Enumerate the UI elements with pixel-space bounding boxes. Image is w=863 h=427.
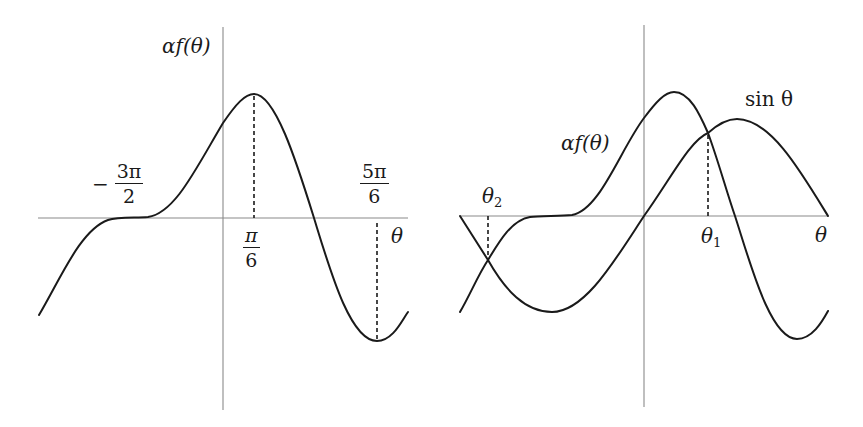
right-alpha-f-label: αf(θ) [561,133,610,153]
theta1-subscript: 1 [713,235,721,250]
numerator: 5π [360,162,389,183]
denominator: 2 [123,184,135,206]
left-panel [38,27,408,410]
label-neg-3pi-over-2: − 3π 2 [92,162,143,206]
denominator: 6 [368,184,380,206]
theta1-symbol: θ [701,224,713,248]
right-sin-label: sin θ [745,89,793,109]
theta1-label: θ1 [701,226,721,249]
label-pi-over-6: π 6 [243,226,260,270]
theta2-symbol: θ [482,184,494,208]
right-panel [460,25,828,407]
minus-sign: − [92,172,109,196]
theta2-subscript: 2 [494,195,502,210]
figure-canvas [0,0,863,427]
right-x-axis-label: θ [815,225,827,245]
denominator: 6 [245,248,257,270]
theta2-label: θ2 [482,186,502,209]
label-5pi-over-6: 5π 6 [360,162,389,206]
left-x-axis-label: θ [391,226,403,246]
numerator: 3π [115,162,144,183]
left-y-axis-label: αf(θ) [162,36,211,56]
numerator: π [243,226,260,247]
